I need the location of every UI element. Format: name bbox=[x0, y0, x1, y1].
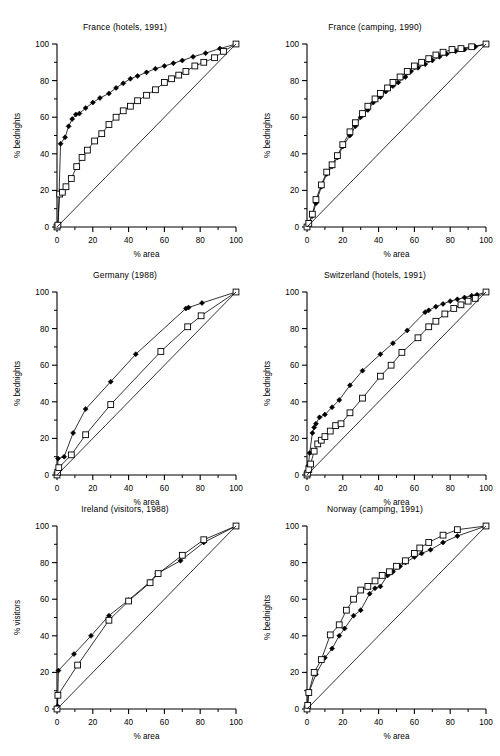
series-line-equality-line bbox=[307, 526, 486, 709]
panel-ireland-visitors: Ireland (visitors, 1988) 020406080100020… bbox=[0, 504, 250, 756]
x-tick-label: 100 bbox=[229, 484, 243, 493]
x-tick-label: 20 bbox=[338, 484, 348, 493]
lorenz-curve-figure: France (hotels, 1991) 020406080100020406… bbox=[0, 0, 500, 756]
marker-open-square bbox=[155, 571, 161, 577]
y-tick-label: 60 bbox=[290, 361, 300, 370]
y-tick-label: 80 bbox=[40, 559, 50, 568]
y-tick-label: 0 bbox=[294, 705, 299, 714]
marker-filled-diamond bbox=[441, 301, 446, 306]
x-tick-label: 40 bbox=[124, 718, 134, 727]
marker-open-square bbox=[55, 222, 61, 228]
marker-open-square bbox=[386, 569, 392, 575]
marker-open-square bbox=[347, 410, 353, 416]
marker-filled-diamond bbox=[448, 299, 453, 304]
marker-open-square bbox=[352, 120, 358, 126]
x-tick-label: 80 bbox=[446, 718, 456, 727]
y-tick-label: 100 bbox=[285, 522, 299, 531]
marker-open-square bbox=[144, 92, 150, 98]
y-tick-label: 40 bbox=[290, 632, 300, 641]
marker-open-square bbox=[360, 111, 366, 117]
y-tick-label: 80 bbox=[290, 325, 300, 334]
panel-france-hotels: France (hotels, 1991) 020406080100020406… bbox=[0, 22, 250, 274]
marker-open-square bbox=[440, 532, 446, 538]
marker-filled-diamond bbox=[441, 540, 446, 545]
marker-filled-diamond bbox=[455, 297, 460, 302]
marker-filled-diamond bbox=[310, 430, 315, 435]
marker-open-square bbox=[404, 69, 410, 75]
marker-open-square bbox=[108, 402, 114, 408]
plot-france-hotels: 020406080100020406080100% area% bednight… bbox=[0, 22, 250, 274]
y-tick-label: 40 bbox=[40, 398, 50, 407]
marker-open-square bbox=[158, 349, 164, 355]
marker-open-square bbox=[55, 692, 61, 698]
x-tick-label: 40 bbox=[374, 718, 384, 727]
x-tick-label: 60 bbox=[160, 236, 170, 245]
marker-open-square bbox=[379, 573, 385, 579]
series-line-equality-line bbox=[307, 292, 486, 475]
marker-open-square bbox=[198, 313, 204, 319]
marker-open-square bbox=[192, 63, 198, 69]
marker-open-square bbox=[162, 80, 168, 86]
marker-filled-diamond bbox=[428, 547, 433, 552]
y-axis-title: % bednights bbox=[13, 361, 22, 406]
marker-open-square bbox=[113, 114, 119, 120]
marker-open-square bbox=[399, 349, 405, 355]
x-tick-label: 20 bbox=[88, 236, 98, 245]
marker-open-square bbox=[63, 184, 69, 190]
marker-open-square bbox=[358, 587, 364, 593]
series-line-equality-line bbox=[307, 44, 486, 227]
plot-switzerland-hotels: 020406080100020406080100% area% bednight… bbox=[250, 270, 500, 522]
marker-open-square bbox=[415, 335, 421, 341]
y-tick-label: 40 bbox=[40, 150, 50, 159]
marker-open-square bbox=[85, 147, 91, 153]
marker-open-square bbox=[169, 76, 175, 82]
x-tick-label: 100 bbox=[229, 718, 243, 727]
marker-open-square bbox=[324, 169, 330, 175]
y-tick-label: 20 bbox=[290, 434, 300, 443]
x-tick-label: 60 bbox=[160, 484, 170, 493]
marker-filled-diamond bbox=[180, 58, 185, 63]
x-tick-label: 0 bbox=[305, 236, 310, 245]
y-tick-label: 100 bbox=[285, 288, 299, 297]
series-line-equality-line bbox=[57, 526, 236, 709]
y-tick-label: 40 bbox=[40, 632, 50, 641]
x-tick-label: 40 bbox=[124, 236, 134, 245]
marker-open-square bbox=[212, 55, 218, 61]
y-tick-label: 60 bbox=[40, 113, 50, 122]
marker-open-square bbox=[135, 98, 141, 104]
marker-open-square bbox=[372, 96, 378, 102]
marker-filled-diamond bbox=[121, 81, 126, 86]
series-line-equality-line bbox=[57, 292, 236, 475]
plot-ireland-visitors: 020406080100020406080100% area% visitors bbox=[0, 504, 250, 756]
marker-open-square bbox=[308, 461, 314, 467]
marker-filled-diamond bbox=[144, 70, 149, 75]
marker-open-square bbox=[340, 142, 346, 148]
marker-open-square bbox=[377, 91, 383, 97]
x-tick-label: 0 bbox=[55, 484, 60, 493]
y-tick-label: 0 bbox=[44, 705, 49, 714]
y-tick-label: 60 bbox=[40, 361, 50, 370]
marker-open-square bbox=[338, 421, 344, 427]
marker-filled-diamond bbox=[162, 63, 167, 68]
y-axis-title: % bednights bbox=[13, 113, 22, 158]
marker-filled-diamond bbox=[71, 430, 76, 435]
marker-filled-diamond bbox=[63, 135, 68, 140]
y-axis-title: % bednights bbox=[263, 595, 272, 640]
marker-filled-diamond bbox=[171, 61, 176, 66]
x-tick-label: 80 bbox=[196, 236, 206, 245]
y-tick-label: 20 bbox=[290, 186, 300, 195]
y-tick-label: 0 bbox=[294, 471, 299, 480]
marker-filled-diamond bbox=[455, 534, 460, 539]
marker-open-square bbox=[365, 583, 371, 589]
y-tick-label: 80 bbox=[290, 559, 300, 568]
panel-germany: Germany (1988) 020406080100020406080100%… bbox=[0, 270, 250, 522]
x-tick-label: 40 bbox=[374, 236, 384, 245]
marker-open-square bbox=[377, 373, 383, 379]
marker-filled-diamond bbox=[419, 551, 424, 556]
plot-france-camping: 020406080100020406080100% area% bednight… bbox=[250, 22, 500, 274]
marker-open-square bbox=[433, 52, 439, 58]
marker-open-square bbox=[201, 59, 207, 65]
marker-open-square bbox=[390, 80, 396, 86]
y-tick-label: 0 bbox=[294, 223, 299, 232]
marker-open-square bbox=[56, 465, 62, 471]
